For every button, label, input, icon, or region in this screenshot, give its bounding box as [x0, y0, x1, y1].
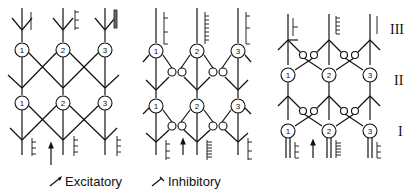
neuron-label: 2: [327, 127, 332, 136]
network-diagram: 1 2 3 1 2 3: [0, 0, 413, 193]
panel-middle: 1 2 3 1 2 3: [143, 8, 252, 160]
neuron-label: 3: [103, 46, 108, 55]
neuron-label: 1: [20, 46, 25, 55]
layer-label-I: I: [398, 124, 403, 139]
inhibitory-symbol-icon: [152, 178, 162, 186]
legend-inhibitory: Inhibitory: [168, 174, 221, 189]
neuron-label: 2: [195, 47, 200, 56]
neuron-label: 1: [286, 127, 291, 136]
neuron-label: 1: [286, 71, 291, 80]
neuron-label: 3: [236, 47, 241, 56]
panel-left: 1 2 3 1 2 3: [8, 8, 121, 165]
neuron-label: 1: [154, 102, 159, 111]
neuron-label: 3: [236, 102, 241, 111]
panel-right: 1 2 3 1 2 3: [278, 14, 381, 158]
neuron-label: 1: [154, 47, 159, 56]
layer-label-II: II: [394, 73, 404, 88]
neuron-label: 2: [327, 71, 332, 80]
neuron-label: 2: [61, 99, 66, 108]
neuron-label: 3: [368, 127, 373, 136]
neuron-label: 3: [368, 71, 373, 80]
neuron-label: 3: [103, 99, 108, 108]
legend-excitatory: Excitatory: [65, 174, 123, 189]
legend: Excitatory Inhibitory: [50, 174, 221, 189]
neuron-label: 2: [195, 102, 200, 111]
excitatory-symbol-icon: [50, 178, 60, 186]
layer-label-III: III: [390, 22, 404, 37]
neuron-label: 1: [20, 99, 25, 108]
neuron-label: 2: [61, 46, 66, 55]
